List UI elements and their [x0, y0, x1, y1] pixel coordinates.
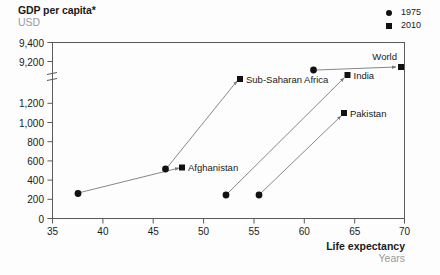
connector-india	[226, 78, 344, 195]
point-label-world: World	[372, 51, 397, 62]
point-pakistan-2010	[341, 110, 347, 116]
y-tick-label: 0	[38, 214, 44, 225]
y-tick-label: 9,400	[19, 38, 44, 49]
x-tick-label: 35	[47, 226, 59, 237]
x-axis-title: Life expectancy	[326, 240, 405, 252]
x-tick-labels: 35 40 45 50 55 60 65 70	[47, 226, 411, 237]
x-tick-label: 55	[248, 226, 260, 237]
point-pakistan-1975	[256, 192, 263, 199]
y-tick-labels: 9,400 9,200 1,200 1,000 800 600 400 200 …	[19, 38, 44, 225]
y-tick-label: 200	[27, 194, 44, 205]
x-tick-label: 50	[198, 226, 210, 237]
x-tick-label: 45	[148, 226, 160, 237]
series-connectors	[78, 67, 396, 195]
point-world-1975	[310, 67, 317, 74]
y-tick-label: 600	[27, 156, 44, 167]
x-tick-label: 40	[97, 226, 109, 237]
point-afghanistan-1975	[75, 190, 82, 197]
point-label-india: India	[354, 70, 375, 81]
y-tick-label: 9,200	[19, 57, 44, 68]
point-label-pakistan: Pakistan	[350, 108, 386, 119]
point-label-afghanistan: Afghanistan	[188, 162, 238, 173]
point-afghanistan-2010	[179, 165, 185, 171]
point-india-2010	[345, 72, 351, 78]
y-tick-label: 800	[27, 137, 44, 148]
y-tick-label: 1,000	[19, 118, 44, 129]
connector-pakistan	[259, 116, 341, 195]
point-label-sub-saharan-africa: Sub-Saharan Africa	[246, 74, 329, 85]
point-sub-saharan-africa-1975	[162, 166, 169, 173]
connector-sub-saharan-africa	[166, 81, 237, 169]
plot-area: 9,400 9,200 1,200 1,000 800 600 400 200 …	[0, 0, 440, 275]
x-axis-ticks	[53, 219, 405, 224]
x-tick-label: 70	[399, 226, 411, 237]
point-india-1975	[223, 192, 230, 199]
point-world-2010	[398, 64, 404, 70]
x-tick-label: 60	[299, 226, 311, 237]
point-sub-saharan-africa-2010	[237, 76, 243, 82]
point-labels: Afghanistan Sub-Saharan Africa India Pak…	[188, 51, 397, 173]
x-tick-label: 65	[349, 226, 361, 237]
y-tick-label: 400	[27, 175, 44, 186]
x-axis-units: Years	[379, 252, 405, 264]
y-axis-ticks	[48, 43, 53, 219]
y-tick-label: 1,200	[19, 98, 44, 109]
chart-container: GDP per capita* USD 1975 2010	[0, 0, 440, 275]
